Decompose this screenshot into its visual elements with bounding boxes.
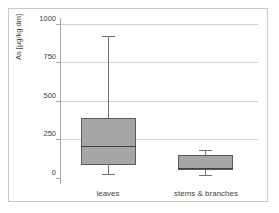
y-axis-line bbox=[60, 18, 61, 184]
y-axis-tick-500 bbox=[56, 101, 60, 102]
y-axis-tick-250 bbox=[56, 139, 60, 140]
stems-lower-cap bbox=[199, 175, 212, 176]
plot-area bbox=[60, 18, 258, 184]
boxplot-figure: 1000 750 500 250 0 As [µg/kg dm] bbox=[0, 0, 279, 213]
gridline-750 bbox=[60, 62, 258, 63]
y-tick-label-0: 0 bbox=[22, 169, 56, 177]
x-tick-label-leaves: leaves bbox=[78, 190, 138, 198]
y-tick-label-750: 750 bbox=[22, 53, 56, 61]
y-tick-label-1000: 1000 bbox=[22, 15, 56, 23]
y-axis-title: As [µg/kg dm] bbox=[14, 14, 23, 60]
leaves-median-line bbox=[81, 146, 136, 147]
x-tick-label-stems-branches: stems & branches bbox=[168, 190, 244, 198]
y-axis-tick-1000 bbox=[56, 24, 60, 25]
stems-upper-cap bbox=[199, 150, 212, 151]
gridline-500 bbox=[60, 101, 258, 102]
gridline-1000 bbox=[60, 24, 258, 25]
leaves-lower-whisker bbox=[108, 165, 109, 174]
y-axis-tick-0 bbox=[56, 178, 60, 179]
y-tick-label-250: 250 bbox=[22, 130, 56, 138]
leaves-lower-cap bbox=[102, 174, 115, 175]
stems-median-line bbox=[178, 168, 233, 169]
y-tick-label-500: 500 bbox=[22, 92, 56, 100]
leaves-upper-cap bbox=[102, 36, 115, 37]
leaves-upper-whisker bbox=[108, 36, 109, 118]
leaves-box bbox=[81, 118, 136, 165]
y-axis-tick-750 bbox=[56, 62, 60, 63]
